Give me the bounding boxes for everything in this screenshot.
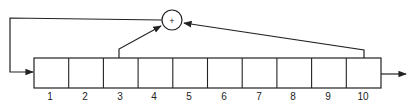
cell-label-7: 7 <box>256 91 262 102</box>
cell-label-1: 1 <box>47 91 53 102</box>
cell-label-6: 6 <box>221 91 227 102</box>
cell-labels: 1 2 3 4 5 6 7 8 9 10 <box>47 91 369 102</box>
tap-line-cell-3 <box>119 26 161 58</box>
cell-label-9: 9 <box>325 91 331 102</box>
cell-label-2: 2 <box>82 91 88 102</box>
shift-register <box>34 58 381 88</box>
tap-line-cell-10 <box>184 23 364 58</box>
feedback-line <box>10 18 162 72</box>
cell-label-5: 5 <box>186 91 192 102</box>
cell-label-3: 3 <box>117 91 123 102</box>
xor-plus-symbol: + <box>169 16 174 26</box>
cell-label-10: 10 <box>357 91 369 102</box>
cell-label-8: 8 <box>290 91 296 102</box>
lfsr-diagram: 1 2 3 4 5 6 7 8 9 10 + <box>0 0 420 108</box>
xor-node: + <box>162 10 182 30</box>
cell-label-4: 4 <box>151 91 157 102</box>
